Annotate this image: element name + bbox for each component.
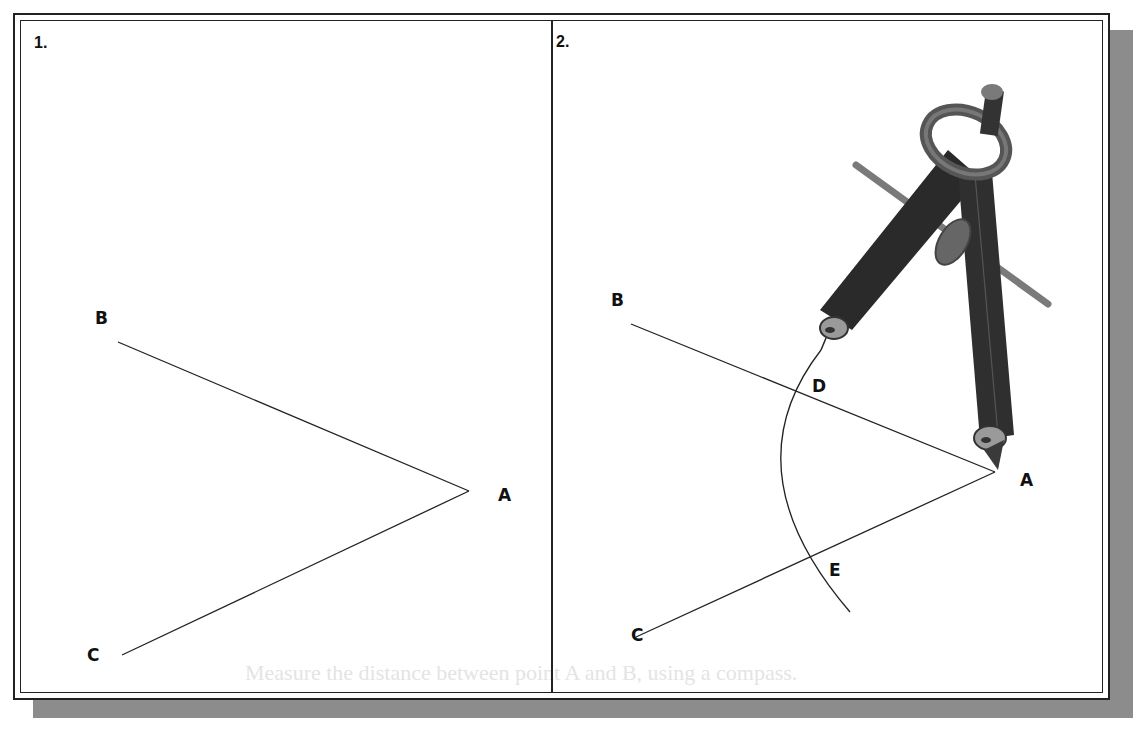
compass-icon bbox=[820, 84, 1048, 470]
point-c-label: C bbox=[87, 645, 99, 665]
geometry-drawing bbox=[0, 0, 1140, 731]
point-e-label: E bbox=[829, 560, 841, 580]
point-c-label: C bbox=[631, 625, 643, 645]
point-b-label: B bbox=[95, 308, 108, 328]
panel-1-angle bbox=[118, 342, 469, 655]
panel-2-angle bbox=[631, 324, 995, 637]
panel-2-label: 2. bbox=[556, 33, 569, 51]
point-b-label: B bbox=[611, 290, 624, 310]
point-d-label: D bbox=[812, 376, 826, 396]
panel-1-label: 1. bbox=[34, 34, 47, 52]
point-a-label: A bbox=[498, 485, 511, 505]
point-a-label: A bbox=[1020, 470, 1033, 490]
